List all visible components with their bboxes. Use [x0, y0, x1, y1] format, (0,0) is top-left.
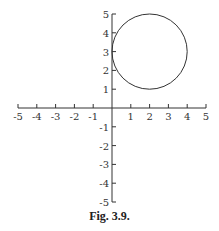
coordinate-plot: -5-4-3-2-112345-5-4-3-2-112345 [0, 0, 219, 231]
tick-label: 4 [103, 28, 109, 39]
tick-label: 1 [103, 84, 109, 95]
tick-label: -5 [13, 111, 23, 122]
tick-label: 5 [103, 9, 109, 20]
tick-label: 2 [103, 65, 109, 76]
tick-label: -4 [32, 111, 42, 122]
tick-label: 1 [128, 111, 134, 122]
tick-label: 3 [165, 111, 171, 122]
tick-label: -1 [99, 122, 109, 133]
figure-caption: Fig. 3.9. [0, 209, 219, 224]
tick-label: -3 [51, 111, 61, 122]
tick-label: -1 [88, 111, 98, 122]
tick-label: 2 [146, 111, 152, 122]
tick-label: -4 [99, 178, 109, 189]
axes [18, 14, 206, 202]
tick-label: 4 [184, 111, 190, 122]
circle-shape [112, 14, 187, 89]
tick-label: -2 [99, 141, 109, 152]
tick-label: 3 [103, 47, 109, 58]
tick-label: -2 [70, 111, 80, 122]
tick-label: 5 [203, 111, 209, 122]
tick-label: -5 [99, 197, 109, 208]
tick-label: -3 [99, 159, 109, 170]
